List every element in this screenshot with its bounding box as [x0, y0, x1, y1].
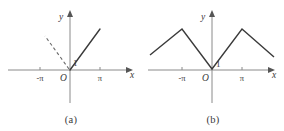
solid-ray-a — [70, 29, 100, 70]
x-tick-label-pi-a: π — [98, 73, 103, 83]
x-tick-label-pi-b: π — [240, 73, 245, 83]
dashed-ray-a — [45, 36, 69, 69]
plot-a: x y -π π O 1 — [0, 0, 142, 131]
x-tick-label-neg-pi-a: -π — [36, 73, 44, 83]
y-axis-arrow-a — [67, 10, 73, 17]
x-tick-label-neg-pi-b: -π — [178, 73, 186, 83]
figure-panel-b: x y -π π O 1 (b) — [142, 0, 284, 131]
x-axis-label-b: x — [271, 70, 277, 80]
y-axis-arrow-b — [209, 10, 215, 17]
plot-b: x y -π π O 1 — [142, 0, 284, 131]
caption-a: (a) — [0, 114, 142, 125]
figure-container: x y -π π O 1 (a) — [0, 0, 284, 131]
origin-label-a: O — [60, 73, 67, 83]
x-axis-label-a: x — [129, 70, 135, 80]
figure-panel-a: x y -π π O 1 (a) — [0, 0, 142, 131]
origin-label-b: O — [202, 73, 209, 83]
y-axis-label-b: y — [200, 12, 206, 22]
y-axis-label-a: y — [58, 12, 64, 22]
caption-b: (b) — [142, 114, 284, 125]
